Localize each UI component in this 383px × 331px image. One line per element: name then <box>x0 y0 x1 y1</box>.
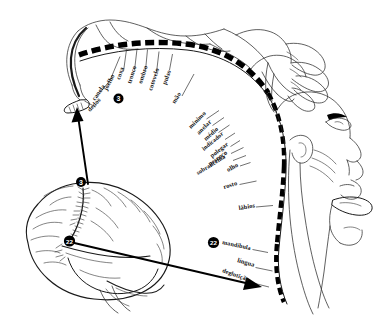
brain-marker-22-number: 22 <box>66 238 73 245</box>
brain-marker-3: 3 <box>76 177 86 187</box>
arc-marker-3-number: 3 <box>117 95 121 102</box>
brain-marker-22: 22 <box>64 235 75 246</box>
brain-marker-3-number: 3 <box>79 179 83 186</box>
arc-marker-22: 22 <box>208 237 219 248</box>
figure-background <box>0 0 383 331</box>
figure-canvas: 332222 coxatroncoombrocotovelopulsojoelh… <box>0 0 383 331</box>
homunculus-figure: 332222 coxatroncoombrocotovelopulsojoelh… <box>0 0 383 331</box>
arc-marker-3: 3 <box>114 94 124 104</box>
arc-marker-22-number: 22 <box>210 239 217 246</box>
